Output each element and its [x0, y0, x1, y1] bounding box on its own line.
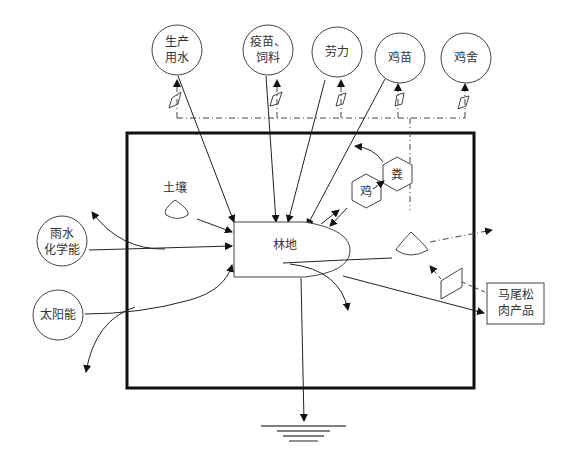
- emergy-diagram: [0, 0, 574, 470]
- label-labor: 劳力: [317, 44, 357, 60]
- label-water: 生产 用水: [157, 34, 197, 66]
- label-rain: 雨水 化学能: [40, 226, 84, 258]
- label-forest: 林地: [265, 237, 305, 253]
- heat-sink-icon: [261, 426, 346, 441]
- label-soil: 土壤: [160, 180, 190, 196]
- label-coop: 鸡舍: [446, 50, 486, 66]
- soil-storage: [165, 200, 188, 219]
- label-manure: 粪: [387, 167, 407, 183]
- label-output: 马尾松 肉产品: [487, 287, 544, 319]
- label-chicken: 鸡: [356, 184, 376, 200]
- label-solar: 太阳能: [36, 307, 80, 323]
- label-chick: 鸡苗: [380, 50, 420, 66]
- product-storage: [396, 232, 428, 255]
- label-vaccine-feed: 疫苗、 饲料: [245, 34, 291, 66]
